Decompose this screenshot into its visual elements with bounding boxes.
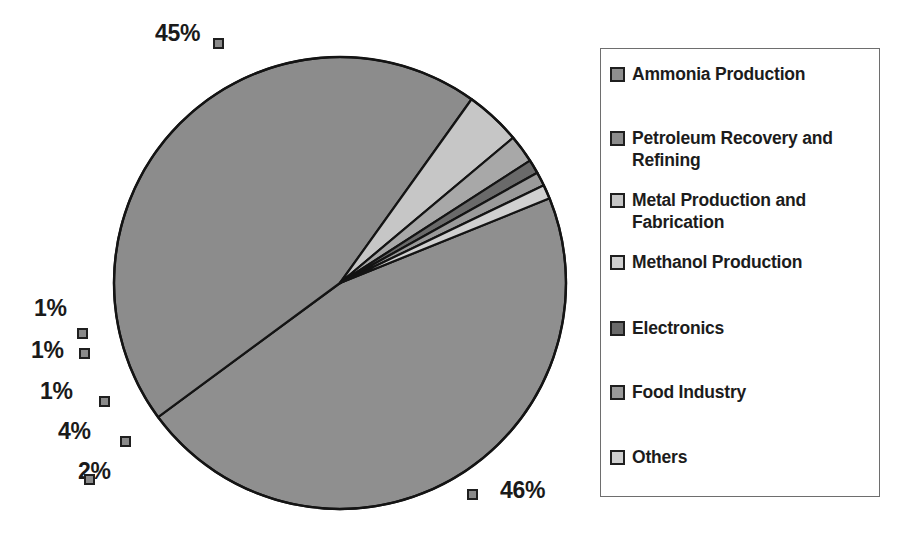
legend-item-label: Metal Production and Fabrication (632, 189, 872, 233)
legend-swatch-icon (610, 131, 625, 146)
legend-item-label: Food Industry (632, 381, 746, 403)
pie-plot-area: 45%1%1%1%4%2%46% (0, 0, 590, 543)
callout-1-a-marker-icon (77, 328, 88, 339)
legend-item-label: Electronics (632, 317, 724, 339)
legend-item[interactable]: Methanol Production (610, 251, 872, 273)
callout-2-marker-icon (84, 474, 95, 485)
legend-item[interactable]: Food Industry (610, 381, 872, 403)
legend-swatch-icon (610, 321, 625, 336)
callout-45-label: 45% (155, 20, 200, 47)
pie-chart-figure: 45%1%1%1%4%2%46% Ammonia ProductionPetro… (0, 0, 902, 543)
legend-swatch-icon (610, 255, 625, 270)
pie-slice-group (114, 57, 566, 509)
legend-swatch-icon (610, 193, 625, 208)
legend-swatch-icon (610, 385, 625, 400)
callout-1-c-label: 1% (40, 378, 73, 405)
legend-item-label: Others (632, 446, 687, 468)
legend-item-label: Methanol Production (632, 251, 802, 273)
legend-item[interactable]: Metal Production and Fabrication (610, 189, 872, 233)
callout-1-a-label: 1% (34, 295, 67, 322)
callout-4-label: 4% (58, 418, 91, 445)
callout-46-label: 46% (500, 477, 545, 504)
legend-swatch-icon (610, 67, 625, 82)
callout-1-c-marker-icon (99, 396, 110, 407)
legend-item-label: Petroleum Recovery and Refining (632, 127, 872, 171)
chart-legend: Ammonia ProductionPetroleum Recovery and… (600, 48, 880, 497)
callout-46-marker-icon (467, 489, 478, 500)
legend-item-list: Ammonia ProductionPetroleum Recovery and… (601, 49, 879, 496)
legend-item-label: Ammonia Production (632, 63, 805, 85)
legend-item[interactable]: Ammonia Production (610, 63, 872, 85)
callout-4-marker-icon (120, 436, 131, 447)
callout-1-b-marker-icon (79, 348, 90, 359)
legend-item[interactable]: Petroleum Recovery and Refining (610, 127, 872, 171)
legend-item[interactable]: Electronics (610, 317, 872, 339)
callout-1-b-label: 1% (31, 337, 64, 364)
callout-45-marker-icon (213, 38, 224, 49)
legend-item[interactable]: Others (610, 446, 872, 468)
legend-swatch-icon (610, 450, 625, 465)
